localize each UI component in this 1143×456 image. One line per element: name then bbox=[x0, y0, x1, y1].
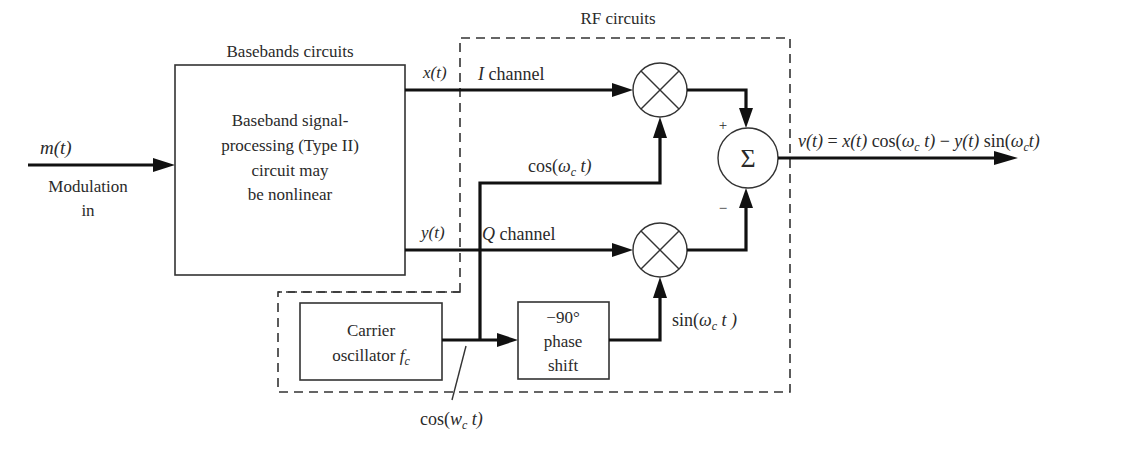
baseband-block-line3: circuit may bbox=[252, 161, 329, 180]
q-multiplier bbox=[633, 223, 687, 277]
baseband-block-line1: Baseband signal- bbox=[232, 111, 349, 130]
carrier-block-line2: oscillator fc bbox=[332, 346, 410, 368]
sin-carrier-arrowhead bbox=[653, 277, 667, 298]
summer-plus-sign: + bbox=[719, 117, 727, 133]
phase-block-line1: −90° bbox=[546, 308, 579, 327]
quadrature-modulator-diagram: Basebands circuits RF circuits m(t) Modu… bbox=[0, 0, 1143, 456]
baseband-block-line4: be nonlinear bbox=[248, 185, 333, 204]
i-product-arrowhead bbox=[739, 108, 753, 128]
cos-carrier-label: cos(ωc t) bbox=[528, 156, 592, 179]
q-product-arrowhead bbox=[739, 188, 753, 208]
q-channel-label: Q channel bbox=[482, 224, 555, 244]
summer-sigma-icon: Σ bbox=[740, 144, 755, 173]
cos-carrier-arrowhead bbox=[653, 117, 667, 138]
cos-annotation-label: cos(wc t) bbox=[420, 409, 483, 432]
q-product-line bbox=[687, 205, 746, 250]
carrier-block-line1: Carrier bbox=[347, 321, 395, 340]
sin-carrier-line bbox=[609, 294, 660, 340]
q-signal-label: y(t) bbox=[419, 223, 445, 242]
output-equation: v(t) = x(t) cos(ωc t) − y(t) sin(ωct) bbox=[798, 131, 1040, 154]
i-signal-label: x(t) bbox=[422, 63, 447, 82]
phase-block-line2: phase bbox=[544, 332, 583, 351]
phase-block-line3: shift bbox=[548, 356, 579, 375]
baseband-region-title: Basebands circuits bbox=[227, 42, 354, 61]
i-product-line bbox=[687, 90, 746, 112]
summer-minus-sign: − bbox=[719, 200, 727, 216]
i-multiplier bbox=[633, 63, 687, 117]
output-arrowhead bbox=[994, 151, 1018, 165]
input-label-line2: in bbox=[81, 201, 95, 220]
carrier-oscillator-block bbox=[300, 303, 442, 380]
input-signal-label: m(t) bbox=[40, 137, 72, 159]
rf-region-title: RF circuits bbox=[580, 9, 655, 28]
carrier-output-arrowhead bbox=[497, 333, 518, 347]
i-channel-arrowhead bbox=[612, 83, 633, 97]
sin-carrier-label: sin(ωc t ) bbox=[672, 310, 737, 333]
i-channel-label: I channel bbox=[477, 64, 544, 84]
input-label-line1: Modulation bbox=[48, 177, 128, 196]
input-arrowhead bbox=[153, 158, 175, 172]
baseband-block-line2: processing (Type II) bbox=[221, 136, 359, 155]
q-channel-arrowhead bbox=[612, 243, 633, 257]
